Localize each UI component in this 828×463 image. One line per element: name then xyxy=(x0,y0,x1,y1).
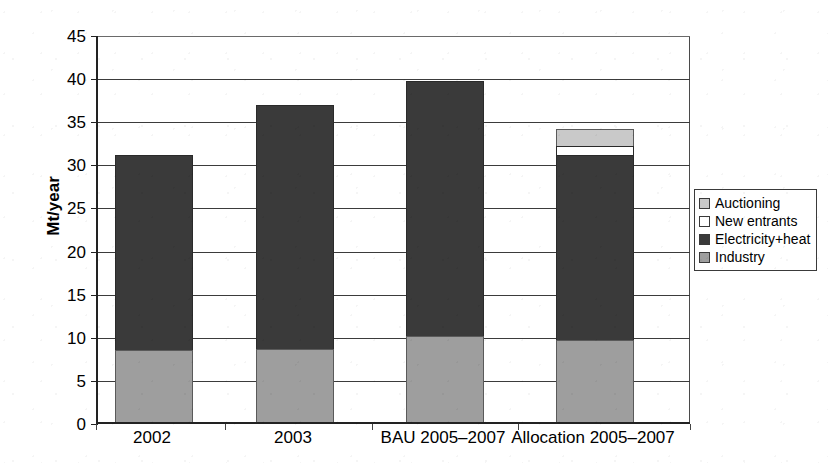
legend-swatch-icon xyxy=(699,198,710,209)
legend-label: New entrants xyxy=(715,214,797,228)
plot-right-edge xyxy=(689,36,690,422)
x-axis-tick xyxy=(96,424,97,430)
y-axis-tick-label: 10 xyxy=(16,330,86,347)
x-axis-tick xyxy=(690,424,691,430)
y-axis-tick-label: 20 xyxy=(16,244,86,261)
y-axis-tick xyxy=(91,338,98,339)
y-axis-tick-label: 40 xyxy=(16,71,86,88)
gridline xyxy=(98,122,690,123)
legend-item-new-entrants: New entrants xyxy=(699,212,810,230)
y-axis-tick-label: 5 xyxy=(16,373,86,390)
bar-segment-auctioning xyxy=(556,129,634,146)
bar-2 xyxy=(256,105,334,422)
x-axis-tick-label: 2002 xyxy=(133,428,171,448)
bar-segment-industry xyxy=(115,350,193,422)
plot-area xyxy=(96,36,690,424)
legend-swatch-icon xyxy=(699,252,710,263)
x-axis-tick xyxy=(372,424,373,430)
bar-4 xyxy=(556,129,634,422)
x-axis-tick-label: BAU 2005–2007 xyxy=(381,428,506,448)
y-axis-tick xyxy=(91,252,98,253)
bar-1 xyxy=(115,155,193,422)
bar-segment-electricity xyxy=(556,155,634,340)
y-axis-tick xyxy=(91,122,98,123)
gridline xyxy=(98,79,690,80)
legend-item-industry: Industry xyxy=(699,248,810,266)
y-axis-tick-label: 25 xyxy=(16,200,86,217)
y-axis-tick-label: 0 xyxy=(16,416,86,433)
bar-segment-electricity xyxy=(256,105,334,349)
bar-segment-electricity xyxy=(406,81,484,336)
y-axis-tick xyxy=(91,295,98,296)
legend-item-electricity-heat: Electricity+heat xyxy=(699,230,810,248)
y-axis-tick xyxy=(91,36,98,37)
y-axis-tick-label: 35 xyxy=(16,114,86,131)
legend-swatch-icon xyxy=(699,234,710,245)
bar-segment-electricity xyxy=(115,155,193,351)
stacked-bar-chart: Mt/year 051015202530354045 20022003BAU 2… xyxy=(0,0,828,463)
y-axis-tick xyxy=(91,165,98,166)
y-axis-tick-label: 15 xyxy=(16,287,86,304)
bar-segment-industry xyxy=(556,340,634,422)
plot-inner xyxy=(98,36,690,422)
legend-label: Electricity+heat xyxy=(715,232,810,246)
y-axis-tick xyxy=(91,381,98,382)
legend-swatch-icon xyxy=(699,216,710,227)
bar-segment-newentrants xyxy=(556,146,634,155)
y-axis-tick xyxy=(91,208,98,209)
legend-label: Industry xyxy=(715,250,765,264)
x-axis-tick xyxy=(225,424,226,430)
x-axis-tick-label: Allocation 2005–2007 xyxy=(511,428,675,448)
chart-legend: AuctioningNew entrantsElectricity+heatIn… xyxy=(694,189,817,271)
y-axis-tick xyxy=(91,79,98,80)
bar-segment-industry xyxy=(256,349,334,422)
bar-3 xyxy=(406,81,484,422)
gridline xyxy=(98,36,690,37)
y-axis-tick-label: 45 xyxy=(16,28,86,45)
bar-segment-industry xyxy=(406,336,484,422)
x-axis-tick-label: 2003 xyxy=(274,428,312,448)
y-axis-tick-label: 30 xyxy=(16,157,86,174)
legend-label: Auctioning xyxy=(715,196,780,210)
legend-item-auctioning: Auctioning xyxy=(699,194,810,212)
x-axis-tick xyxy=(518,424,519,430)
